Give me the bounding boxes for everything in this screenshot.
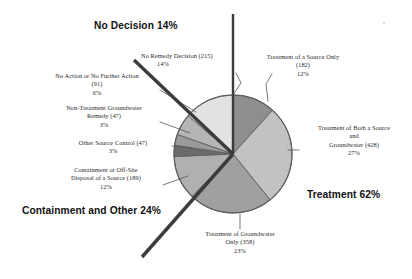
label-no-action-or-no-further-action: No Action or No Further Action (91) 6% <box>33 72 161 97</box>
label-no-remedy-decision-percent: 14% <box>157 60 213 68</box>
label-other-source-control-line1: Other Source Control (47) <box>55 139 171 147</box>
label-non-treatment-gw-percent: 3% <box>42 121 166 129</box>
label-treatment-of-both-source-and-groundwater: Treatment of Both a Source and Groundwat… <box>302 124 406 158</box>
label-treatment-source-only-count: (182) <box>248 61 358 69</box>
label-containment-or-offsite-disposal: Containment or Off-Site Disposal of a So… <box>44 166 168 191</box>
label-treatment-gw-only-line2: Only (358) <box>184 238 296 246</box>
label-containment-offsite-line1: Containment or Off-Site <box>44 166 168 174</box>
label-no-action-line1: No Action or No Further Action <box>33 72 161 80</box>
label-containment-offsite-line2: Disposal of a Source (189) <box>44 174 168 182</box>
label-treatment-both-line1: Treatment of Both a Source <box>302 124 406 132</box>
label-other-source-control: Other Source Control (47) 3% <box>55 139 171 156</box>
label-treatment-source-only-line1: Treatment of a Source Only <box>248 53 358 61</box>
label-non-treatment-gw-line1: Non-Treatment Groundwater <box>42 104 166 112</box>
label-treatment-of-groundwater-only: Treatment of Groundwater Only (358) 23% <box>184 230 296 255</box>
label-treatment-of-a-source-only: Treatment of a Source Only (182) 12% <box>248 53 358 78</box>
label-other-source-control-percent: 3% <box>55 147 171 155</box>
label-containment-offsite-percent: 12% <box>44 183 168 191</box>
label-treatment-both-percent: 27% <box>302 149 406 157</box>
label-treatment-gw-only-percent: 23% <box>184 247 296 255</box>
label-non-treatment-groundwater-remedy: Non-Treatment Groundwater Remedy (47) 3% <box>42 104 166 129</box>
group-header-no-decision: No Decision 14% <box>94 20 178 31</box>
label-treatment-both-line2: and <box>302 132 406 140</box>
scan-artifact-speck <box>383 22 385 24</box>
group-header-treatment: Treatment 62% <box>307 189 380 200</box>
label-no-remedy-decision-line1: No Remedy Decision (215) <box>141 52 213 60</box>
label-treatment-gw-only-line1: Treatment of Groundwater <box>184 230 296 238</box>
label-no-action-percent: 6% <box>33 89 161 97</box>
label-treatment-source-only-percent: 12% <box>248 70 358 78</box>
label-no-remedy-decision: No Remedy Decision (215) 14% <box>141 52 213 69</box>
pie-chart-figure: No Decision 14% Containment and Other 24… <box>0 0 412 279</box>
label-no-action-count: (91) <box>33 80 161 88</box>
label-treatment-both-line3: Groundwater (428) <box>302 141 406 149</box>
label-non-treatment-gw-line2: Remedy (47) <box>42 112 166 120</box>
group-header-containment-and-other: Containment and Other 24% <box>22 205 161 216</box>
